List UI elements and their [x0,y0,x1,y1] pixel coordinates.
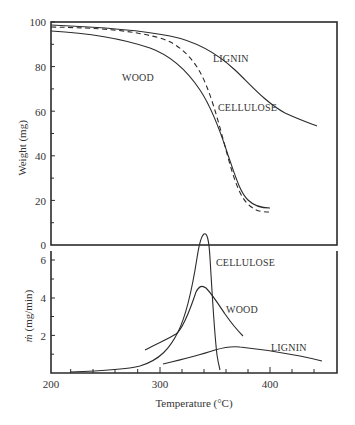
bottom-curve-cellulose [70,234,220,372]
top-plot-frame [51,22,337,245]
bottom-curve-wood [145,286,243,350]
bottom-y-tick-labels: 6 4 2 [41,254,47,342]
tick-label-100: 100 [30,16,47,28]
tick-label-2: 2 [41,330,47,342]
tga-chart: 100 80 60 40 20 0 Weight (mg) WOOD CELLU… [0,0,355,425]
tick-label-80: 80 [35,61,47,73]
mass-rate-symbol: ṁ [22,334,34,342]
tick-label-20: 20 [35,195,47,207]
mass-rate-unit: (mg/min) [22,290,35,335]
bottom-y-axis-title: ṁ (mg/min) [22,290,35,343]
bottom-label-cellulose: CELLULOSE [216,257,275,268]
x-tick-labels: 200 300 400 [43,378,279,390]
tick-label-400: 400 [262,378,279,390]
tick-label-40: 40 [35,150,47,162]
top-curve-lignin [51,25,317,126]
bottom-label-lignin: LIGNIN [271,342,307,353]
x-axis-title: Temperature (°C) [155,397,233,410]
top-y-axis-title: Weight (mg) [16,120,29,176]
tick-label-6: 6 [41,254,47,266]
tick-label-0: 0 [41,239,47,251]
top-y-tick-labels: 100 80 60 40 20 0 [30,16,47,251]
tick-label-60: 60 [35,106,47,118]
bottom-label-wood: WOOD [226,304,258,315]
top-label-cellulose: CELLULOSE [218,102,277,113]
tick-label-200: 200 [43,378,60,390]
top-label-lignin: LIGNIN [213,53,249,64]
top-label-wood: WOOD [122,72,154,83]
tick-label-300: 300 [152,378,169,390]
tick-label-4: 4 [41,292,47,304]
